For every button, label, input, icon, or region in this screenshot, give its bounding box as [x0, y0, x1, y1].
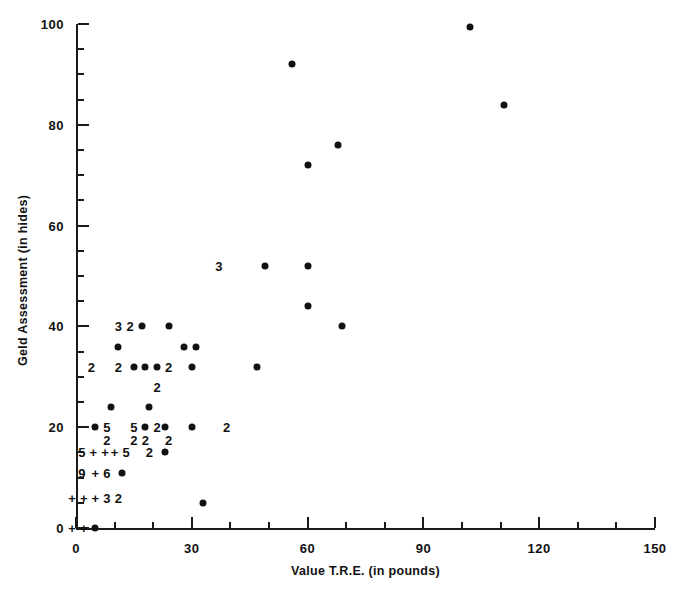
- data-point-overlap-label: 2: [115, 360, 122, 373]
- data-point-overlap-label: +: [90, 446, 98, 459]
- x-tick-major: [654, 517, 656, 528]
- data-point-overlap-label: +: [68, 491, 76, 504]
- data-point: [107, 404, 114, 411]
- data-point: [92, 525, 99, 532]
- y-tick-minor: [78, 174, 84, 176]
- data-point: [161, 449, 168, 456]
- data-point: [466, 23, 473, 30]
- data-point-overlap-label: 2: [165, 360, 172, 373]
- y-tick-minor: [78, 250, 84, 252]
- data-point: [254, 363, 261, 370]
- y-axis-label: Geld Assessment (in hides): [16, 195, 30, 366]
- data-point-overlap-label: +: [92, 466, 100, 479]
- y-tick-label: 80: [20, 117, 64, 132]
- data-point: [154, 363, 161, 370]
- data-point-overlap-label: 3: [215, 259, 222, 272]
- data-point-overlap-label: +: [111, 446, 119, 459]
- data-point-overlap-label: 2: [126, 320, 133, 333]
- data-point: [92, 424, 99, 431]
- data-point: [304, 303, 311, 310]
- data-point-overlap-label: +: [68, 522, 76, 535]
- data-point: [161, 424, 168, 431]
- y-tick-label: 100: [20, 17, 64, 32]
- x-tick-label: 90: [416, 541, 431, 556]
- data-point-overlap-label: 3: [115, 320, 122, 333]
- data-point-overlap-label: 6: [103, 466, 110, 479]
- data-point: [289, 61, 296, 68]
- data-point: [304, 262, 311, 269]
- data-point-overlap-label: 2: [223, 421, 230, 434]
- data-point: [165, 323, 172, 330]
- x-tick-minor: [345, 522, 347, 528]
- y-tick-minor: [78, 300, 84, 302]
- scatter-plot: 0306090120150020406080100552222225+++529…: [0, 0, 679, 595]
- y-tick-minor: [78, 48, 84, 50]
- data-point-overlap-label: +: [80, 522, 88, 535]
- x-tick-major: [538, 517, 540, 528]
- data-point: [119, 469, 126, 476]
- data-point: [181, 343, 188, 350]
- data-point: [262, 262, 269, 269]
- data-point-overlap-label: 5: [123, 446, 130, 459]
- x-tick-label: 60: [300, 541, 315, 556]
- y-tick-label: 20: [20, 420, 64, 435]
- y-tick-minor: [78, 401, 84, 403]
- x-axis-label: Value T.R.E. (in pounds): [291, 564, 440, 578]
- x-tick-label: 30: [184, 541, 199, 556]
- x-tick-minor: [577, 522, 579, 528]
- data-point: [142, 424, 149, 431]
- x-tick-major: [191, 517, 193, 528]
- x-tick-major: [307, 517, 309, 528]
- data-point-overlap-label: +: [92, 491, 100, 504]
- data-point: [339, 323, 346, 330]
- x-tick-minor: [500, 522, 502, 528]
- y-tick-major: [78, 124, 89, 126]
- data-point-overlap-label: 2: [153, 380, 160, 393]
- data-point: [138, 323, 145, 330]
- x-tick-minor: [114, 522, 116, 528]
- data-point-overlap-label: +: [101, 446, 109, 459]
- x-tick-minor: [229, 522, 231, 528]
- data-point: [142, 363, 149, 370]
- data-point: [146, 404, 153, 411]
- data-point: [115, 343, 122, 350]
- data-point-overlap-label: 2: [153, 421, 160, 434]
- data-point: [501, 101, 508, 108]
- data-point: [200, 499, 207, 506]
- y-tick-minor: [78, 376, 84, 378]
- data-point: [130, 363, 137, 370]
- y-tick-minor: [78, 149, 84, 151]
- x-tick-minor: [152, 522, 154, 528]
- y-tick-minor: [78, 199, 84, 201]
- x-tick-label: 0: [72, 541, 80, 556]
- data-point: [188, 363, 195, 370]
- data-point: [192, 343, 199, 350]
- y-tick-label: 0: [20, 521, 64, 536]
- x-tick-minor: [268, 522, 270, 528]
- data-point: [188, 424, 195, 431]
- data-point-overlap-label: 2: [115, 491, 122, 504]
- x-tick-minor: [615, 522, 617, 528]
- x-tick-label: 120: [528, 541, 551, 556]
- x-tick-label: 150: [643, 541, 666, 556]
- data-point-overlap-label: 3: [103, 491, 110, 504]
- data-point-overlap-label: 2: [88, 360, 95, 373]
- y-tick-major: [78, 23, 89, 25]
- data-point-overlap-label: +: [80, 491, 88, 504]
- y-tick-major: [78, 426, 89, 428]
- data-point-overlap-label: 2: [146, 446, 153, 459]
- y-tick-major: [78, 225, 89, 227]
- y-tick-minor: [78, 73, 84, 75]
- data-point: [335, 141, 342, 148]
- data-point-overlap-label: 2: [130, 433, 137, 446]
- y-tick-major: [78, 325, 89, 327]
- x-tick-minor: [461, 522, 463, 528]
- x-tick-major: [422, 517, 424, 528]
- y-tick-minor: [78, 99, 84, 101]
- data-point: [304, 162, 311, 169]
- x-axis-line: [76, 528, 655, 530]
- y-tick-minor: [78, 351, 84, 353]
- data-point-overlap-label: 9: [78, 466, 85, 479]
- y-tick-minor: [78, 275, 84, 277]
- data-point-overlap-label: 5: [78, 446, 85, 459]
